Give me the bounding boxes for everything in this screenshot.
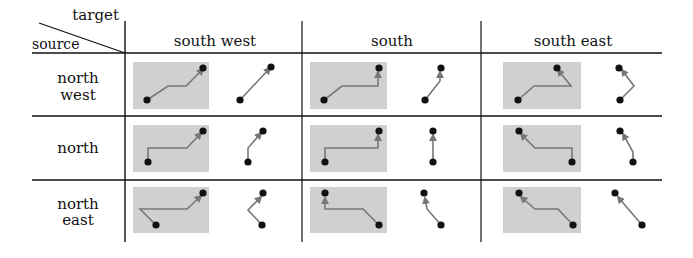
source-node-routed-n-sw bbox=[144, 158, 151, 165]
target-node-routed-n-s bbox=[375, 127, 382, 134]
column-header-south-east: south east bbox=[534, 32, 612, 50]
source-node-routed-nw-se bbox=[514, 96, 521, 103]
row-header-north: north bbox=[57, 139, 99, 157]
direct-edge-nw-se bbox=[620, 70, 634, 100]
box-ne-se bbox=[503, 187, 581, 233]
source-node-direct-n-se bbox=[629, 158, 636, 165]
source-node-routed-ne-sw bbox=[152, 221, 159, 228]
direct-edge-nw-sw bbox=[240, 68, 270, 100]
direct-edge-n-sw bbox=[248, 133, 261, 162]
direct-edge-nw-s bbox=[425, 72, 440, 100]
target-node-direct-ne-se bbox=[611, 189, 618, 196]
target-node-routed-nw-sw bbox=[199, 64, 206, 71]
source-node-direct-n-s bbox=[429, 158, 436, 165]
target-node-direct-ne-sw bbox=[259, 189, 266, 196]
target-node-routed-n-se bbox=[515, 127, 522, 134]
source-node-routed-n-se bbox=[568, 158, 575, 165]
row-header-north-west-line2: west bbox=[60, 86, 95, 104]
direct-edge-ne-se bbox=[618, 197, 642, 225]
target-node-direct-nw-se bbox=[615, 64, 622, 71]
target-node-direct-n-s bbox=[429, 127, 436, 134]
source-node-direct-nw-s bbox=[421, 96, 428, 103]
corner-target-label: target bbox=[72, 6, 119, 24]
target-node-direct-n-se bbox=[616, 127, 623, 134]
source-node-routed-ne-s bbox=[375, 221, 382, 228]
direct-edge-n-se bbox=[623, 134, 633, 162]
source-node-direct-nw-sw bbox=[236, 96, 243, 103]
target-node-direct-nw-s bbox=[437, 64, 444, 71]
source-node-direct-n-sw bbox=[244, 158, 251, 165]
row-header-north-west-line1: north bbox=[57, 69, 99, 87]
target-node-routed-nw-se bbox=[553, 64, 560, 71]
target-node-routed-n-sw bbox=[199, 127, 206, 134]
direct-edge-ne-s bbox=[425, 198, 441, 225]
source-node-routed-ne-se bbox=[569, 221, 576, 228]
column-header-south-west: south west bbox=[174, 32, 256, 50]
target-node-routed-ne-sw bbox=[199, 189, 206, 196]
source-node-direct-ne-se bbox=[638, 221, 645, 228]
source-node-direct-ne-s bbox=[437, 221, 444, 228]
target-node-routed-ne-s bbox=[321, 189, 328, 196]
target-node-routed-nw-s bbox=[375, 64, 382, 71]
target-node-direct-n-sw bbox=[259, 127, 266, 134]
direct-edge-ne-sw bbox=[248, 197, 262, 225]
row-header-north-east-line2: east bbox=[62, 211, 94, 229]
target-node-direct-ne-s bbox=[420, 189, 427, 196]
direction-table-figure: target source south west south south eas… bbox=[0, 0, 693, 258]
source-node-direct-nw-se bbox=[616, 96, 623, 103]
source-node-routed-nw-s bbox=[320, 96, 327, 103]
target-node-routed-ne-se bbox=[515, 189, 522, 196]
target-node-direct-nw-sw bbox=[267, 63, 274, 70]
corner-source-label: source bbox=[32, 36, 79, 52]
column-header-south: south bbox=[371, 32, 413, 50]
box-ne-sw bbox=[133, 187, 209, 233]
source-node-routed-n-s bbox=[321, 158, 328, 165]
source-node-routed-nw-sw bbox=[143, 96, 150, 103]
source-node-direct-ne-sw bbox=[258, 221, 265, 228]
